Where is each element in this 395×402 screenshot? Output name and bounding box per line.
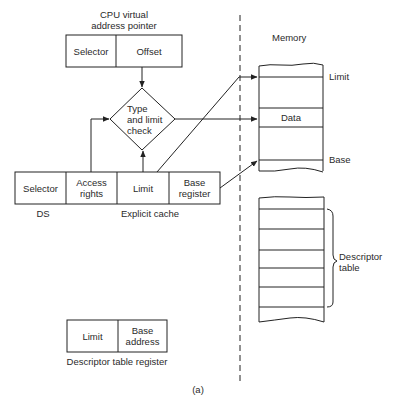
- check-label-line1: Type: [127, 103, 148, 114]
- cache-limit-label: Limit: [133, 183, 153, 194]
- cpu-pointer-title-line1: CPU virtual: [70, 9, 178, 20]
- cache-selector-label: Selector: [23, 183, 58, 194]
- dtr-base-address-field: Base address: [118, 320, 167, 352]
- check-label-line3: check: [127, 125, 152, 136]
- cpu-pointer-selector-field: Selector: [66, 35, 116, 67]
- dtr-base-address-line1: Base: [132, 325, 154, 336]
- cache-selector-field: Selector: [15, 172, 66, 204]
- cpu-pointer-offset-field: Offset: [116, 35, 182, 67]
- cache-base-register-line2: register: [179, 188, 211, 199]
- cache-base-register-field: Base register: [169, 172, 220, 204]
- figure-label: (a): [188, 384, 208, 395]
- check-label-line2: and limit: [127, 114, 162, 125]
- cache-base-register-line1: Base: [184, 177, 206, 188]
- dtr-base-address-line2: address: [126, 336, 160, 347]
- ds-label: DS: [28, 208, 58, 219]
- explicit-cache-caption: Explicit cache: [100, 208, 200, 219]
- cache-access-rights-line2: rights: [80, 188, 103, 199]
- cache-access-rights-field: Access rights: [66, 172, 117, 204]
- cache-access-rights-line1: Access: [76, 177, 107, 188]
- descriptor-table-brace: [327, 209, 337, 307]
- memory-limit-label: Limit: [329, 71, 349, 82]
- memory-base-label: Base: [329, 154, 351, 165]
- memory-data-label: Data: [259, 112, 323, 123]
- descriptor-table-block: [259, 197, 324, 322]
- access-rights-arrow: [91, 119, 109, 172]
- base-to-memory-base-arrow: [220, 161, 257, 188]
- descriptor-table-label-line2: table: [339, 262, 360, 273]
- cpu-pointer-title-line2: address pointer: [70, 20, 178, 31]
- memory-title: Memory: [272, 32, 306, 43]
- limit-to-memory-limit-arrow: [157, 77, 257, 172]
- dtr-caption: Descriptor table register: [50, 356, 184, 367]
- dtr-limit-field: Limit: [67, 320, 118, 352]
- dtr-limit-label: Limit: [82, 331, 102, 342]
- cache-limit-field: Limit: [117, 172, 169, 204]
- descriptor-table-label-line1: Descriptor: [339, 251, 382, 262]
